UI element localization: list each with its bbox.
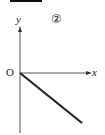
y-axis-label: y (16, 14, 21, 25)
plotted-line (20, 73, 82, 123)
x-axis-label: x (92, 67, 97, 78)
y-axis-arrow-icon (18, 26, 22, 32)
figure-number: ② (51, 13, 62, 25)
origin-label: O (6, 67, 14, 78)
